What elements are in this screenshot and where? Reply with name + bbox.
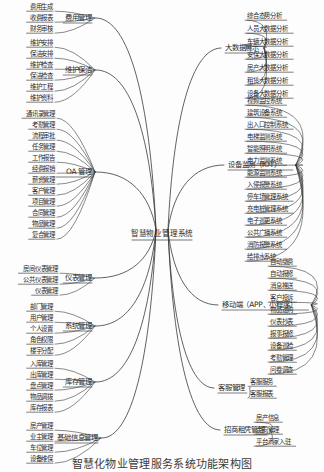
branch-label-fee-management: 费用管理 [65, 14, 92, 21]
leaf-label-iot-monitoring-3: 电梯监测系统 [247, 134, 282, 140]
leaf-label-big-data-display-2: 车辆大数据分析 [247, 39, 288, 45]
root-node-label: 智慧物业管理系统 [131, 230, 193, 238]
leaf-label-mobile-app-3: 客户投诉 [270, 295, 293, 301]
leaf-label-inventory-management-2: 盘点管理 [30, 383, 53, 389]
leaf-label-iot-monitoring-2: 出入口控制系统 [247, 122, 288, 128]
leaf-label-oa-management-3: 任务管理 [32, 144, 55, 150]
leaf-label-fee-management-0: 费用生成 [30, 4, 53, 10]
leaf-label-leasing-management-2: 平台商家入驻 [256, 439, 291, 445]
leaf-label-oa-management-0: 通讯录管理 [26, 111, 55, 117]
leaf-label-oa-management-2: 流程审批 [32, 133, 55, 139]
leaf-label-inventory-management-0: 入库管理 [30, 361, 53, 367]
branch-label-oa-management: OA 管理 [66, 168, 92, 175]
leaf-label-oa-management-11: 复合管理 [32, 232, 55, 238]
leaf-label-meter-management-1: 公共仪表管理 [23, 277, 58, 283]
leaf-label-big-data-display-1: 人员大数据分析 [247, 26, 288, 32]
branch-label-inventory-management: 库存管理 [65, 378, 92, 385]
leaf-label-mobile-app-5: 仪表抄表 [270, 319, 293, 325]
leaf-label-system-management-2: 个人设置 [30, 326, 53, 332]
leaf-label-fee-management-2: 财务审核 [30, 26, 53, 32]
leaf-label-oa-management-4: 工作报告 [32, 155, 55, 161]
leaf-label-mobile-app-0: 自动缴费 [270, 259, 293, 265]
leaf-label-maintenance-cleaning-1: 保洁安排 [30, 51, 53, 57]
leaf-label-big-data-display-0: 综合态势分析 [247, 13, 282, 19]
leaf-label-leasing-management-1: 合同管理 [256, 427, 279, 433]
leaf-label-customer-service-0: 客服服务 [250, 379, 273, 385]
leaf-label-iot-monitoring-8: 停车场管理系统 [247, 194, 288, 200]
leaf-label-iot-monitoring-0: 视频监控系统 [247, 98, 282, 104]
leaf-label-oa-management-8: 项目管理 [32, 199, 55, 205]
leaf-label-iot-monitoring-11: 公共广播系统 [247, 230, 282, 236]
leaf-label-iot-monitoring-6: 能源监测系统 [247, 170, 282, 176]
leaf-label-oa-management-7: 客户管理 [32, 188, 55, 194]
figure-caption: 智慧化物业管理服务系统功能架构图 [0, 455, 324, 471]
branch-label-maintenance-cleaning: 维护保洁 [65, 66, 92, 73]
leaf-label-system-management-0: 部门管理 [30, 304, 53, 310]
leaf-label-system-management-4: 楼宇分配 [30, 348, 53, 354]
leaf-label-big-data-display-5: 租赁大数据分析 [247, 78, 288, 84]
leaf-label-mobile-app-4: 物品递购 [270, 307, 293, 313]
leaf-label-mobile-app-2: 消息推送 [270, 283, 293, 289]
leaf-label-basic-info-management-1: 业主管理 [30, 434, 53, 440]
leaf-label-iot-monitoring-5: 电力监测系统 [247, 158, 282, 164]
leaf-label-meter-management-2: 仪表管理 [35, 288, 58, 294]
leaf-label-iot-monitoring-10: 电子巡更系统 [247, 218, 282, 224]
leaf-label-oa-management-10: 物品管理 [32, 221, 55, 227]
branch-label-basic-info-management: 基础信息管理 [57, 434, 98, 441]
leaf-label-system-management-1: 用户管理 [30, 315, 53, 321]
leaf-label-customer-service-1: 客服报表 [250, 391, 273, 397]
leaf-label-leasing-management-0: 房产信息 [256, 415, 279, 421]
leaf-label-maintenance-cleaning-0: 维护安排 [30, 40, 53, 46]
branch-label-customer-service: 客服管理 [218, 384, 245, 391]
branch-label-meter-management: 仪表管理 [65, 274, 92, 281]
leaf-label-iot-monitoring-12: 消防报警系统 [247, 242, 282, 248]
branch-label-system-management: 系统管理 [65, 322, 92, 329]
leaf-label-iot-monitoring-9: 充电桩管理系统 [247, 206, 288, 212]
leaf-label-mobile-app-7: 设备巡检 [270, 343, 293, 349]
leaf-label-meter-management-0: 房间仪表管理 [23, 266, 58, 272]
leaf-label-maintenance-cleaning-5: 维护资料 [30, 95, 53, 101]
leaf-label-basic-info-management-0: 房产管理 [30, 423, 53, 429]
leaf-label-mobile-app-9: 问卷调查 [270, 367, 293, 373]
leaf-label-oa-management-1: 考勤管理 [32, 122, 55, 128]
leaf-label-mobile-app-1: 自动报修 [270, 271, 293, 277]
leaf-label-mobile-app-8: 考勤管理 [270, 355, 293, 361]
leaf-label-oa-management-9: 合同管理 [32, 210, 55, 216]
leaf-label-big-data-display-3: 安保大数据分析 [247, 52, 288, 58]
leaf-label-maintenance-cleaning-4: 维护工程 [30, 84, 53, 90]
leaf-label-iot-monitoring-4: 智能照明系统 [247, 146, 282, 152]
leaf-label-iot-monitoring-1: 建筑设备系统 [247, 110, 282, 116]
leaf-label-mobile-app-6: 报事报修 [270, 331, 293, 337]
mindmap-canvas: 智慧物业管理系统费用管理费用生成收费报表财务审核维护保洁维护安排保洁安排维护检查… [0, 0, 324, 472]
leaf-label-inventory-management-1: 出库管理 [30, 372, 53, 378]
leaf-label-oa-management-6: 薪资管理 [32, 177, 55, 183]
leaf-label-system-management-3: 角色权限 [30, 337, 53, 343]
leaf-label-maintenance-cleaning-3: 保洁检查 [30, 73, 53, 79]
leaf-label-inventory-management-3: 物品调拨 [30, 394, 53, 400]
leaf-label-big-data-display-4: 房产大数据分析 [247, 65, 288, 71]
leaf-label-iot-monitoring-7: 入侵报警系统 [247, 182, 282, 188]
leaf-label-inventory-management-4: 库存报表 [30, 405, 53, 411]
leaf-label-fee-management-1: 收费报表 [30, 15, 53, 21]
leaf-label-maintenance-cleaning-2: 维护检查 [30, 62, 53, 68]
leaf-label-oa-management-5: 经费报销 [32, 166, 55, 172]
leaf-label-basic-info-management-2: 车位管理 [30, 445, 53, 451]
